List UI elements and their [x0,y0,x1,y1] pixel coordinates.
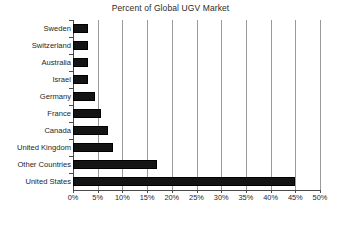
y-axis-tick-label: Switzerland [3,41,71,50]
x-axis-tick-label: 50% [307,193,333,202]
bar-row [73,88,320,105]
y-axis-tick-label: Other Countries [3,160,71,169]
x-axis-tick-label: 45% [282,193,308,202]
y-tick-mark [69,54,73,55]
x-axis-tick-label: 35% [233,193,259,202]
y-axis-tick-label: United Kingdom [3,143,71,152]
x-axis-tick-label: 10% [109,193,135,202]
x-tick-mark [271,190,272,193]
bar [73,58,88,67]
bar [73,160,157,169]
bar [73,126,108,135]
y-tick-mark [69,37,73,38]
chart-container: Percent of Global UGV Market SwedenSwitz… [0,0,341,229]
y-tick-mark [69,156,73,157]
bar-row [73,105,320,122]
x-axis-tick-label: 15% [134,193,160,202]
bar [73,177,295,186]
bar [73,143,113,152]
x-tick-mark [122,190,123,193]
bar [73,92,95,101]
y-tick-mark [69,139,73,140]
y-tick-mark [69,20,73,21]
x-axis-tick-label: 0% [60,193,86,202]
y-axis-tick-label: Israel [3,75,71,84]
y-tick-mark [69,105,73,106]
x-tick-mark [246,190,247,193]
x-axis-tick-label: 40% [258,193,284,202]
x-axis-tick-label: 25% [184,193,210,202]
bar [73,24,88,33]
x-tick-mark [172,190,173,193]
y-tick-mark [69,88,73,89]
bar-row [73,156,320,173]
x-tick-mark [98,190,99,193]
plot-area [73,20,320,190]
y-axis-tick-label: Australia [3,58,71,67]
bar [73,41,88,50]
bar [73,109,101,118]
y-axis-tick-label: Canada [3,126,71,135]
bar [73,75,88,84]
x-tick-mark [147,190,148,193]
y-axis-tick-label: Germany [3,92,71,101]
y-tick-mark [69,173,73,174]
x-axis-tick-label: 20% [159,193,185,202]
x-axis-tick-label: 30% [208,193,234,202]
y-axis-tick-label: Sweden [3,24,71,33]
bar-row [73,139,320,156]
x-axis-tick-label: 5% [85,193,111,202]
y-axis-tick-label: France [3,109,71,118]
x-tick-mark [295,190,296,193]
chart-title: Percent of Global UGV Market [0,3,341,13]
bar-row [73,71,320,88]
y-tick-mark [69,122,73,123]
x-tick-mark [197,190,198,193]
x-axis-tick-labels: 0%5%10%15%20%25%30%35%40%45%50% [0,193,341,207]
x-tick-mark [73,190,74,193]
bar-row [73,37,320,54]
gridline-50% [320,20,321,190]
bar-row [73,54,320,71]
y-tick-mark [69,71,73,72]
y-axis-category-labels: SwedenSwitzerlandAustraliaIsraelGermanyF… [0,20,71,190]
x-tick-mark [320,190,321,193]
bar-row [73,20,320,37]
bar-row [73,122,320,139]
x-tick-mark [221,190,222,193]
bar-row [73,173,320,190]
y-axis-tick-label: United States [3,177,71,186]
